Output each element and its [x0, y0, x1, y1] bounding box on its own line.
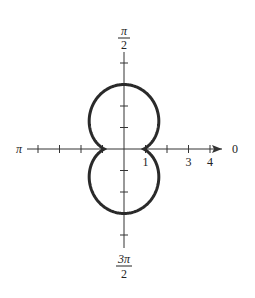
angle-label-pi: π: [16, 142, 23, 156]
angle-label-3pi-over-2-num: 3π: [117, 252, 131, 266]
angle-label-pi-over-2-num: π: [121, 24, 128, 38]
tick-label-3: 3: [186, 155, 192, 169]
angle-label-0: 0: [232, 142, 238, 156]
angle-label-pi-over-2-den: 2: [121, 38, 127, 52]
tick-label-4: 4: [207, 155, 213, 169]
tick-label-1: 1: [143, 155, 149, 169]
angle-label-3pi-over-2-den: 2: [121, 267, 127, 281]
polar-chart: 0 π π 2 3π 2 134: [0, 0, 255, 298]
